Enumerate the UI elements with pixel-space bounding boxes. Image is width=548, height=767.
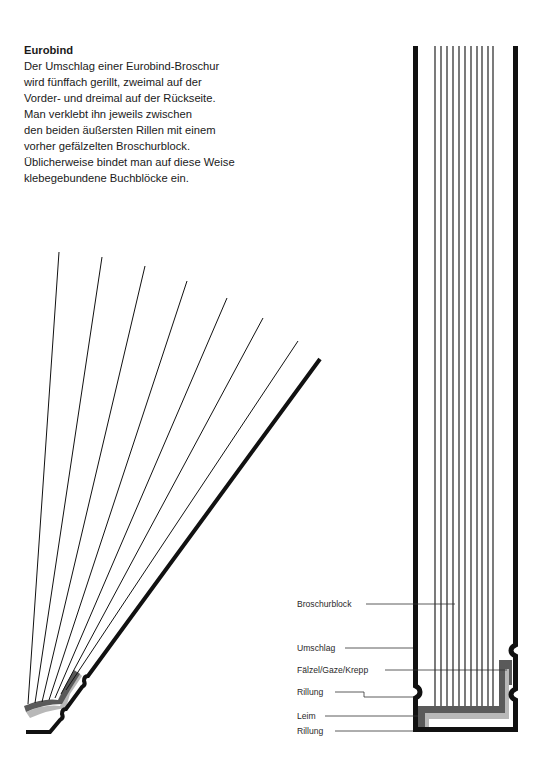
eurobind-diagram	[0, 0, 548, 767]
faelzel-layer	[425, 669, 509, 727]
fan-page-lines	[28, 252, 298, 704]
label-faelzel: Fälzel/Gaze/Krepp	[297, 665, 368, 675]
label-leim: Leim	[297, 711, 316, 721]
section-diagram	[416, 46, 516, 730]
label-rillung-upper: Rillung	[297, 687, 323, 697]
label-umschlag: Umschlag	[297, 643, 335, 653]
label-rillung-lower: Rillung	[297, 726, 323, 736]
fan-diagram	[24, 252, 320, 732]
page-lines	[435, 46, 493, 706]
label-broschurblock: Broschurblock	[297, 599, 351, 609]
